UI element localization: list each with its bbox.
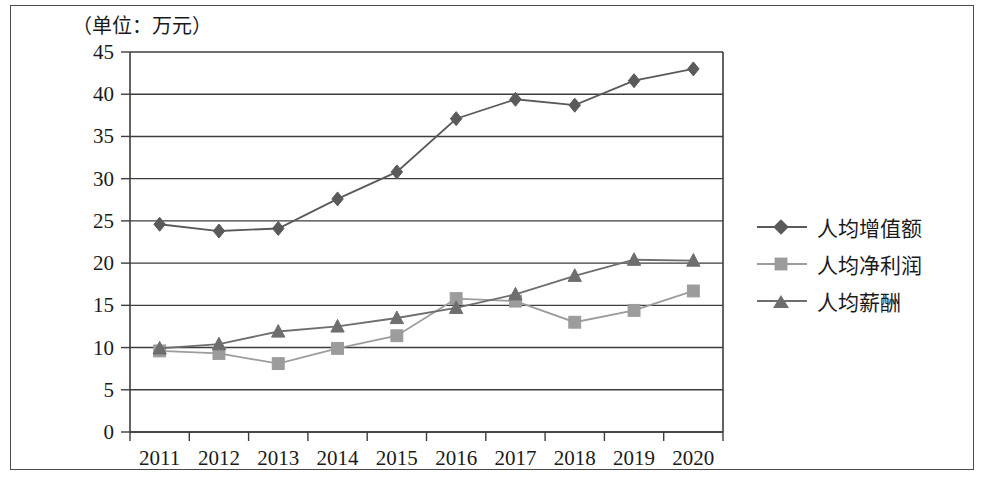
x-tick-label: 2016 [435, 446, 477, 470]
x-tick-label: 2020 [672, 446, 714, 470]
legend-marker-diamond-icon [757, 217, 807, 237]
data-series [153, 62, 700, 370]
x-tick-label: 2019 [613, 446, 655, 470]
legend-glyph [773, 219, 788, 234]
y-tick-label: 20 [93, 251, 114, 275]
legend-item: 人均薪酬 [757, 282, 972, 319]
legend-glyph [773, 295, 789, 308]
data-point-square [687, 285, 699, 297]
y-tick-label: 0 [104, 420, 115, 444]
y-tick-label: 10 [93, 336, 114, 360]
series-line [160, 291, 694, 364]
x-tick-label: 2012 [198, 446, 240, 470]
y-tick-label: 30 [93, 167, 114, 191]
data-point-square [272, 358, 284, 370]
series-triangle [153, 253, 700, 354]
x-axis-tick-labels: 2011201220132014201520162017201820192020 [139, 446, 714, 470]
series-diamond [154, 62, 699, 238]
data-point-square [628, 304, 640, 316]
data-point-square [332, 342, 344, 354]
data-point-diamond [213, 224, 224, 238]
y-tick-label: 40 [93, 82, 114, 106]
data-point-diamond [628, 74, 639, 88]
data-point-square [391, 330, 403, 342]
y-tick-label: 15 [93, 293, 114, 317]
x-tick-label: 2013 [257, 446, 299, 470]
data-point-diamond [391, 165, 402, 179]
x-tick-label: 2017 [494, 446, 536, 470]
chart-screenshot: （单位：万元） 051015202530354045 2011201220132… [0, 0, 985, 481]
y-tick-label: 25 [93, 209, 114, 233]
legend-glyph [775, 257, 788, 270]
data-point-diamond [154, 217, 165, 231]
x-tick-label: 2011 [139, 446, 180, 470]
data-point-diamond [450, 112, 461, 126]
y-tick-label: 5 [104, 378, 115, 402]
legend-item: 人均净利润 [757, 245, 972, 282]
legend-marker-triangle-icon [757, 291, 807, 311]
data-point-square [569, 316, 581, 328]
legend: 人均增值额人均净利润人均薪酬 [757, 208, 972, 319]
y-axis-tick-labels: 051015202530354045 [93, 40, 114, 444]
y-tick-label: 35 [93, 124, 114, 148]
data-point-diamond [273, 221, 284, 235]
x-tick-label: 2014 [317, 446, 360, 470]
legend-item: 人均增值额 [757, 208, 972, 245]
data-point-diamond [688, 62, 699, 76]
axes [121, 52, 723, 441]
gridlines [130, 52, 723, 432]
legend-marker-square-icon [757, 254, 807, 274]
data-point-diamond [569, 98, 580, 112]
data-point-diamond [332, 192, 343, 206]
legend-label: 人均增值额 [817, 212, 922, 242]
y-tick-label: 45 [93, 40, 114, 64]
series-square [154, 285, 700, 370]
legend-label: 人均薪酬 [817, 286, 901, 316]
x-tick-label: 2018 [554, 446, 596, 470]
x-tick-label: 2015 [376, 446, 418, 470]
legend-label: 人均净利润 [817, 249, 922, 279]
series-line [160, 69, 694, 231]
series-line [160, 260, 694, 349]
